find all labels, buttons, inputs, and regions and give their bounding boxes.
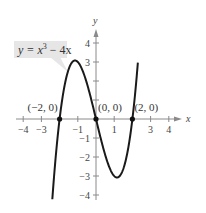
- equation-callout: y = x3 − 4x: [14, 41, 72, 72]
- callout-pointer: [50, 57, 68, 72]
- intercept-point: [93, 116, 98, 121]
- x-tick-label: −4: [18, 124, 29, 135]
- intercept-point: [57, 116, 62, 121]
- y-axis-arrow-icon: [94, 29, 99, 37]
- x-tick-label: 3: [148, 124, 153, 135]
- y-axis-label: y: [92, 15, 98, 26]
- x-tick-label: 4: [166, 124, 171, 135]
- y-tick-label: −1: [79, 133, 90, 144]
- y-tick-label: −4: [79, 190, 90, 201]
- point-label: (0, 0): [98, 101, 122, 114]
- y-tick-label: −3: [79, 171, 90, 182]
- y-tick-label: 4: [85, 38, 90, 49]
- intercept-point: [130, 116, 135, 121]
- x-tick-label: −3: [36, 124, 47, 135]
- point-label: (2, 0): [134, 101, 158, 114]
- x-axis-label: x: [185, 113, 191, 124]
- y-tick-label: 3: [85, 57, 90, 68]
- x-tick-label: 1: [112, 124, 117, 135]
- x-axis-arrow-icon: [174, 117, 182, 122]
- y-tick-label: −2: [79, 152, 90, 163]
- cubic-function-graph: y = x3 − 4x x y −4−3−1134 43−1−2−3−4 (−2…: [0, 0, 206, 213]
- point-label: (−2, 0): [28, 101, 58, 114]
